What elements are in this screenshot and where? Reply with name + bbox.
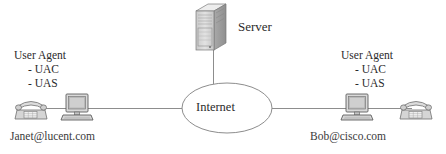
internet-label: Internet	[196, 100, 235, 115]
desktop-computer-icon	[60, 93, 94, 123]
left-user-agent-role-uas: - UAS	[14, 76, 66, 90]
left-endpoint-address: Janet@lucent.com	[10, 130, 95, 142]
telephone-icon	[13, 94, 49, 122]
right-user-agent-title: User Agent	[341, 48, 393, 62]
right-user-agent-role-uac: - UAC	[341, 62, 393, 76]
right-endpoint-address: Bob@cisco.com	[310, 130, 386, 142]
server-tower-icon	[193, 2, 235, 52]
left-user-agent-title: User Agent	[14, 48, 66, 62]
server-label: Server	[238, 19, 272, 35]
desktop-computer-icon	[340, 93, 374, 123]
left-user-agent-role-uac: - UAC	[14, 62, 66, 76]
right-user-agent-label-group: User Agent - UAC - UAS	[341, 48, 393, 90]
telephone-icon	[398, 94, 434, 122]
right-user-agent-role-uas: - UAS	[341, 76, 393, 90]
left-user-agent-label-group: User Agent - UAC - UAS	[14, 48, 66, 90]
